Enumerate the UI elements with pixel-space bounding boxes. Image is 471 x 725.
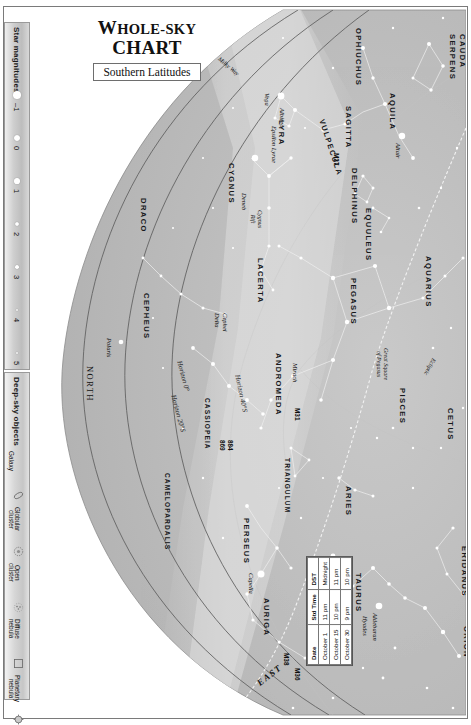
constellation-label-aquila: AQUILA [388,93,397,131]
constellation-label-draco: DRACO [139,198,148,233]
table-cell-0-0: October 1 [319,625,330,665]
constellation-label-aquarius: AQUARIUS [424,256,433,308]
constellation-label-serpens: SERPENS [448,34,457,80]
deepsky-objects-title: Deep-sky objects [12,377,21,446]
constellation-label-cetus: CETUS [446,408,455,441]
constellation-label-cepheus: CEPHEUS [142,293,151,340]
constellation-label-andromeda: ANDROMEDA [274,353,283,416]
constellation-label-pisces: PISCES [398,388,407,424]
deepsky-object-label-m31: M31 [294,408,301,420]
galaxy-icon [13,487,24,498]
magnitude-dot-5 [16,309,19,312]
table-body: October 111 pmMidnightOctober 1510 pm11 … [319,558,352,665]
chart-subtitle: Southern Latitudes [93,63,200,81]
constellation-label-aries: ARIES [344,486,353,516]
magnitude-label-4: 3 [12,275,21,279]
table-header-cell-1: Std Time [308,590,319,625]
deepsky-object-label-m27: M27 [333,153,340,165]
deepsky-object-label-869: 869 [219,440,226,451]
table-cell-2-1: 9 pm [341,590,352,625]
magnitude-dot-1 [14,135,20,141]
star-label-albireo: Albireo [279,108,286,128]
magnitude-dot-3 [15,222,19,226]
deepsky-legend: Deep-sky objects GalaxyGlobularclusterOp… [4,372,30,700]
deepsky-label-4: Planetarynebula [7,675,20,702]
deepsky-object-label-m38: M38 [283,653,290,665]
star-chart-page: SERPENSCAUDAOPHIUCHUSAQUILASAGITTAVULPEC… [0,0,471,725]
star-label-polaris: Polaris [106,338,113,357]
deepsky-label-2: Opencluster [7,563,20,582]
constellation-label-sagitta: SAGITTA [344,106,353,149]
star-magnitudes-title: Star magnitudes [12,27,21,93]
open-cluster-icon [13,599,24,610]
star-label-cephei: Cephei [222,313,229,332]
star-magnitude-legend: Star magnitudes –1012345 [4,22,30,370]
diffuse-nebula-icon [13,655,24,666]
magnitude-label-2: 1 [12,189,21,193]
table-row: October 111 pmMidnight [319,558,330,665]
constellation-label-perseus: PERSEUS [242,518,251,564]
constellation-label-lacerta: LACERTA [256,258,265,304]
magnitude-label-1: 0 [12,146,21,150]
star-label-epsilon-lyrae: Epsilon Lyrae [271,126,278,163]
magnitude-label-6: 5 [12,361,21,365]
planetary-nebula-icon [13,711,24,722]
magnitude-label-3: 2 [12,232,21,236]
table-header-cell-0: Date [308,625,319,665]
constellation-label-taurus: TAURUS [354,573,363,612]
table-cell-1-1: 10 pm [330,590,341,625]
constellation-label-delphinus: DELPHINUS [350,168,359,224]
table-header-row: DateStd TimeDST [308,558,319,665]
table-row: October 309 pm10 pm [341,558,352,665]
deepsky-label-1: Globularcluster [7,507,20,531]
deepsky-label-0: Galaxy [7,451,14,471]
star-label-delta: Delta [214,313,221,328]
constellation-label-cassiopeia: CASSIOPEIA [204,398,211,450]
page-title-line2: CHART [52,38,242,58]
table-cell-0-1: 11 pm [319,590,330,625]
deepsky-object-label-884: 884 [227,440,234,451]
constellation-label-pegasus: PEGASUS [349,278,358,325]
star-label-aldebaran: Aldebaran [372,613,379,641]
table-row: October 1510 pm11 pm [330,558,341,665]
magnitude-dot-4 [15,265,18,268]
constellation-label-cygnus: CYGNUS [227,163,236,204]
table-cell-0-2: Midnight [319,558,330,590]
constellation-label-camelopardalis: CAMELOPARDALIS [164,473,171,550]
globular-cluster-icon [13,543,24,554]
star-label-altair: Altair [395,143,402,158]
constellation-label-orion: ORION [462,626,466,658]
sky-map: SERPENSCAUDAOPHIUCHUSAQUILASAGITTAVULPEC… [33,8,466,717]
table-header-cell-2: DST [308,558,319,590]
star-label-mirach: Mirach [292,363,299,382]
feature-label-0: Great Squareof Pegasus [376,348,389,380]
table-cell-2-0: October 30 [341,625,352,665]
star-label-deneb: Deneb [241,193,248,210]
constellation-label-triangulum: TRIANGULUM [284,458,291,513]
star-label-vega: Vega [264,93,271,106]
magnitude-label-5: 4 [12,318,21,322]
magnitude-label-0: –1 [12,103,21,111]
magnitude-dot-6 [16,352,18,354]
table-cell-1-2: 11 pm [330,558,341,590]
constellation-label-cauda: CAUDA [458,34,466,68]
table-cell-2-2: 10 pm [341,558,352,590]
sky-map-svg [33,8,466,717]
star-label-hyades: Hyades [362,616,369,636]
constellation-label-auriga: AURIGA [262,598,271,636]
feature-label-1: CygnusRift [250,210,263,228]
constellation-label-eridanus: ERIDANUS [460,546,466,597]
page-title-line1: WHOLE-SKY [52,18,242,38]
constellation-label-equuleus: EQUULEUS [364,208,373,261]
constellation-label-ophiuchus: OPHIUCHUS [354,28,363,86]
magnitude-dot-0 [13,91,20,98]
deepsky-label-3: Diffusenebula [7,619,20,639]
chart-header: WHOLE-SKY CHART Southern Latitudes [52,18,242,81]
table-cell-1-0: October 15 [330,625,341,665]
cardinal-label-north: NORTH [85,366,95,402]
deepsky-object-label-m36: M36 [294,668,301,680]
magnitude-dot-2 [14,178,19,183]
date-time-table: DateStd TimeDST October 111 pmMidnightOc… [306,556,353,666]
star-label-capella: Capella [248,573,255,594]
